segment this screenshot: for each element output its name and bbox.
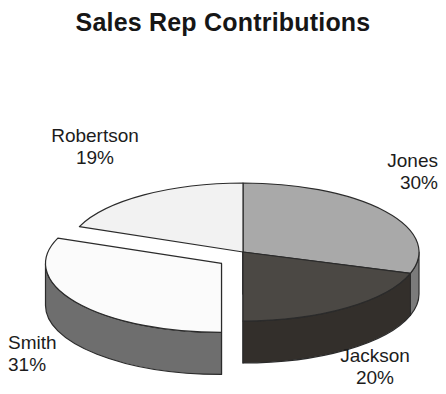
slice-label-jackson: Jackson 20% <box>310 345 440 389</box>
slice-label-smith-name: Smith <box>8 332 57 353</box>
slice-label-robertson-name: Robertson <box>51 125 139 146</box>
slice-label-jones-percent: 30% <box>318 172 438 194</box>
pie-chart: Sales Rep Contributions Robertson 19% Jo… <box>0 0 446 394</box>
slice-label-robertson-percent: 19% <box>30 147 160 169</box>
slice-label-smith: Smith 31% <box>8 332 118 376</box>
slice-label-jones: Jones 30% <box>318 150 438 194</box>
slice-label-jones-name: Jones <box>387 150 438 171</box>
slice-label-smith-percent: 31% <box>8 354 118 376</box>
pie-slice-robertson <box>79 183 243 252</box>
slice-label-robertson: Robertson 19% <box>30 125 160 169</box>
slice-label-jackson-name: Jackson <box>340 345 410 366</box>
slice-label-jackson-percent: 20% <box>310 367 440 389</box>
